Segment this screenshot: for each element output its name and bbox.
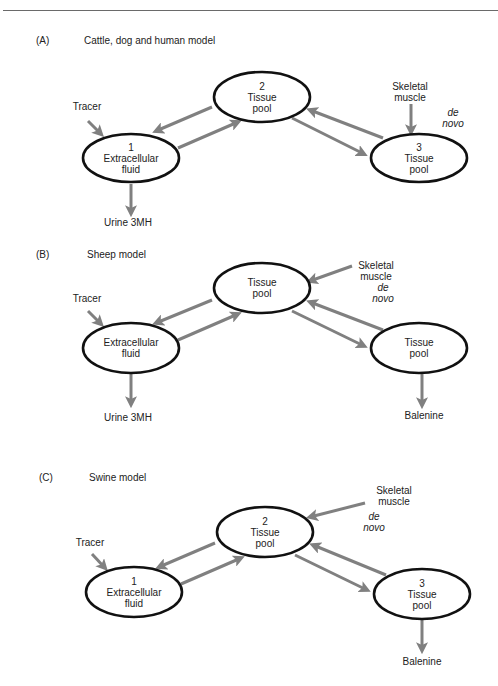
panel-a-letter: (A) [36, 35, 49, 46]
panel-a-label-muscle: muscle [394, 92, 426, 103]
arrow-muscle-in [310, 503, 365, 517]
panel-c-label-de: de [368, 511, 380, 522]
compartment-2-label: Tissue [247, 92, 277, 103]
panel-b-diagram: ExtracellularfluidTissuepoolTissuepoolTr… [73, 260, 467, 423]
arrow-2-to-3 [295, 555, 367, 590]
arrow-tracer-in [88, 121, 101, 134]
panel-c-diagram: 1Extracellularfluid2Tissuepool3Tissuepoo… [76, 485, 470, 667]
panel-b-letter: (B) [36, 249, 49, 260]
panel-a-label-tracer: Tracer [73, 101, 102, 112]
panel-b-label-de: de [377, 282, 389, 293]
compartment-3-label: pool [410, 164, 429, 175]
panel-a-diagram: 1Extracellularfluid2Tissuepool3Tissuepoo… [73, 72, 467, 228]
panel-c-label-tracer: Tracer [76, 537, 105, 548]
compartment-3-label: Tissue [404, 153, 434, 164]
compartment-1-label: fluid [122, 164, 140, 175]
panel-a-label-novo: novo [442, 118, 464, 129]
panel-b-label-tracer: Tracer [73, 293, 102, 304]
compartment-3-label: pool [413, 600, 432, 611]
panel-b-label-muscle: muscle [360, 271, 392, 282]
compartment-3-label: Tissue [407, 589, 437, 600]
compartment-2-label: 2 [259, 81, 265, 92]
compartment-model-figure: (A) Cattle, dog and human model 1Extrace… [0, 0, 498, 686]
compartment-1-label: Extracellular [103, 153, 159, 164]
arrow-tracer-in [88, 311, 101, 324]
panel-c-label-muscle: muscle [378, 496, 410, 507]
compartment-1-label: Extracellular [103, 337, 159, 348]
panel-c-label-novo: novo [363, 522, 385, 533]
panel-a-title: Cattle, dog and human model [84, 35, 215, 46]
compartment-3-label: 3 [416, 142, 422, 153]
compartment-1-label: fluid [122, 348, 140, 359]
panel-a-label-skeletal: Skeletal [392, 81, 428, 92]
compartment-2-label: pool [253, 288, 272, 299]
panel-c-title: Swine model [89, 472, 146, 483]
compartment-2-label: Tissue [247, 277, 277, 288]
panel-b-title: Sheep model [87, 249, 146, 260]
compartment-2-label: 2 [262, 516, 268, 527]
panel-c: (C) Swine model 1Extracellularfluid2Tiss… [39, 472, 470, 667]
panel-c-label-skeletal: Skeletal [376, 485, 412, 496]
panel-a-label-de: de [447, 107, 459, 118]
panel-a: (A) Cattle, dog and human model 1Extrace… [36, 35, 467, 228]
compartment-1-label: 1 [128, 142, 134, 153]
arrow-tracer-in [92, 554, 105, 568]
panel-b-label-balenine: Balenine [405, 410, 444, 421]
arrow-1-to-2 [181, 558, 241, 584]
arrow-1-to-2 [178, 122, 238, 148]
compartment-3-label: Tissue [404, 337, 434, 348]
compartment-2-label: pool [256, 538, 275, 549]
arrow-2-to-1 [156, 300, 212, 323]
compartment-1-label: fluid [125, 598, 143, 609]
compartment-1-label: 1 [131, 576, 137, 587]
compartment-3-label: 3 [419, 578, 425, 589]
panel-c-label-balenine: Balenine [403, 656, 442, 667]
arrow-2-to-3 [292, 311, 364, 346]
arrow-muscle-in [310, 266, 352, 281]
arrow-2-to-1 [159, 543, 215, 567]
arrow-1-to-2 [178, 314, 238, 340]
compartment-2-label: Tissue [250, 527, 280, 538]
compartment-1-label: Extracellular [106, 587, 162, 598]
panel-b: (B) Sheep model ExtracellularfluidTissue… [36, 249, 467, 423]
panel-b-label-urine-3mh: Urine 3MH [104, 412, 152, 423]
panel-b-label-skeletal: Skeletal [358, 260, 394, 271]
compartment-2-label: pool [253, 103, 272, 114]
arrow-2-to-1 [156, 107, 212, 131]
arrow-2-to-3 [292, 118, 364, 154]
compartment-3-label: pool [410, 348, 429, 359]
panel-b-label-novo: novo [372, 293, 394, 304]
panel-a-label-urine-3mh: Urine 3MH [104, 217, 152, 228]
panel-c-letter: (C) [39, 472, 53, 483]
